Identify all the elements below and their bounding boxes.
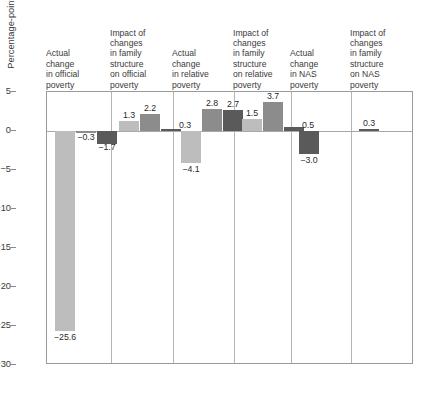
y-axis-tick-label: 5	[0, 86, 11, 96]
column-header-line: change	[46, 59, 79, 69]
column-header-line: in family	[350, 48, 385, 58]
y-axis-tick-label: −30	[0, 359, 11, 369]
column-header-line: change	[172, 59, 209, 69]
y-axis-tick-mark	[11, 208, 16, 209]
column-header-line: structure	[110, 59, 146, 69]
bar	[263, 102, 283, 131]
y-axis-tick-label: −15	[0, 242, 11, 252]
column-header-line: poverty	[290, 80, 318, 90]
bar	[359, 129, 379, 131]
bar-value-label: 3.7	[267, 91, 279, 101]
y-axis-tick-mark	[11, 325, 16, 326]
column-header-line: in family	[233, 48, 273, 58]
column-header-line: Impact of	[350, 28, 385, 38]
column-header-4: Impact ofchangesin familystructureon rel…	[233, 12, 290, 90]
column-header-line: poverty	[46, 80, 79, 90]
plot-area: −25.6−0.3−1.71.32.20.3−4.12.82.71.53.70.…	[46, 91, 413, 364]
y-axis-tick-label: −5	[0, 164, 11, 174]
column-header-line: on official	[110, 69, 146, 79]
column-header-1: Actualchangein officialpoverty	[46, 12, 110, 90]
column-header-line: structure	[233, 59, 273, 69]
category-separator	[234, 92, 235, 363]
bar-value-label: −4.1	[182, 164, 199, 174]
column-header-line: changes	[350, 38, 385, 48]
bar	[242, 119, 262, 131]
y-axis-tick-label: −20	[0, 281, 11, 291]
y-axis-tick-label: −25	[0, 320, 11, 330]
bar-value-label: −3.0	[300, 155, 317, 165]
column-header-line: Impact of	[110, 28, 146, 38]
column-header-5: Actualchangein NASpoverty	[290, 12, 350, 90]
y-axis-title-wrap: Percentage-point change in poverty rate	[8, 0, 22, 395]
category-separator	[291, 92, 292, 363]
bar	[181, 131, 201, 163]
column-header-line: in relative	[172, 69, 209, 79]
y-axis-tick-mark	[11, 169, 16, 170]
bar	[202, 109, 222, 131]
column-header-line: structure	[350, 59, 385, 69]
bar-value-label: −25.6	[54, 332, 76, 342]
y-axis-tick-mark	[11, 247, 16, 248]
bar-value-label: 0.3	[179, 120, 191, 130]
column-header-line: poverty	[233, 80, 273, 90]
column-header-6: Impact ofchangesin familystructureon NAS…	[350, 12, 413, 90]
column-header-line: in official	[46, 69, 79, 79]
column-header-line: in family	[110, 48, 146, 58]
bar	[223, 110, 243, 131]
category-separator	[173, 92, 174, 363]
bar-value-label: 2.8	[206, 98, 218, 108]
bar	[140, 114, 160, 131]
bar-value-label: 2.7	[227, 99, 239, 109]
bar-value-label: −1.7	[98, 142, 115, 152]
bar	[299, 131, 319, 154]
column-header-line: changes	[110, 38, 146, 48]
column-header-3: Actualchangein relativepoverty	[172, 12, 233, 90]
column-header-line: Impact of	[233, 28, 273, 38]
column-header-line: Actual	[290, 48, 318, 58]
y-axis-tick-mark	[11, 91, 16, 92]
bar-value-label: 0.3	[363, 118, 375, 128]
column-header-line: on relative	[233, 69, 273, 79]
column-header-line: Actual	[46, 48, 79, 58]
y-axis-tick-label: 0	[0, 125, 11, 135]
chart-figure: Actualchangein officialpovertyImpact ofc…	[0, 0, 426, 395]
bar-value-label: 1.3	[123, 110, 135, 120]
category-separator	[351, 92, 352, 363]
column-header-line: poverty	[172, 80, 209, 90]
column-header-line: change	[290, 59, 318, 69]
bar	[119, 121, 139, 131]
column-header-line: in NAS	[290, 69, 318, 79]
bar-value-label: 0.5	[302, 120, 314, 130]
y-axis-tick-mark	[11, 286, 16, 287]
y-axis-tick-mark	[11, 364, 16, 365]
bar-value-label: 1.5	[246, 108, 258, 118]
bar-value-label: 2.2	[144, 103, 156, 113]
bar-value-label: −0.3	[77, 132, 94, 142]
column-header-row: Actualchangein officialpovertyImpact ofc…	[46, 12, 414, 90]
y-axis-tick-label: −10	[0, 203, 11, 213]
column-header-2: Impact ofchangesin familystructureon off…	[110, 12, 172, 90]
column-header-line: changes	[233, 38, 273, 48]
y-axis-tick-mark	[11, 130, 16, 131]
column-header-line: Actual	[172, 48, 209, 58]
column-header-line: poverty	[110, 80, 146, 90]
column-header-line: on NAS	[350, 69, 385, 79]
column-header-line: poverty	[350, 80, 385, 90]
bar	[55, 131, 75, 331]
y-axis-title: Percentage-point change in poverty rate	[6, 0, 16, 96]
